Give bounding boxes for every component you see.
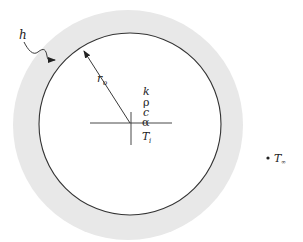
label-Ti-sub: i	[149, 137, 151, 145]
label-r-sub: o	[103, 79, 107, 87]
sphere-body	[39, 33, 221, 215]
sphere-diagram: h r o k ρ c α T i T ∞	[0, 0, 303, 242]
label-alpha: α	[142, 116, 150, 129]
label-h: h	[19, 28, 27, 42]
ambient-point-icon	[266, 156, 269, 159]
label-Tinf-sub: ∞	[281, 158, 286, 165]
